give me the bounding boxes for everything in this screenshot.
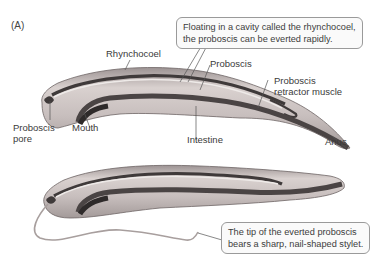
- callout-top-line1: Floating in a cavity called the rhynchoc…: [183, 21, 356, 33]
- label-retractor-line2: retractor muscle: [274, 86, 342, 97]
- label-anus: Anus: [325, 136, 347, 147]
- label-pore-line2: pore: [13, 133, 55, 144]
- label-intestine: Intestine: [187, 134, 223, 145]
- callout-bottom-line2: bears a sharp, nail-shaped stylet.: [228, 238, 363, 250]
- label-retractor-line1: Proboscis: [274, 75, 342, 86]
- panel-label: (A): [11, 20, 24, 31]
- label-proboscis-retractor-muscle: Proboscis retractor muscle: [274, 75, 342, 97]
- label-rhynchocoel: Rhynchocoel: [106, 48, 161, 59]
- callout-stylet: The tip of the everted proboscis bears a…: [221, 222, 370, 254]
- callout-bottom-line1: The tip of the everted proboscis: [228, 226, 363, 238]
- label-proboscis: Proboscis: [210, 58, 252, 69]
- callout-rhynchocoel: Floating in a cavity called the rhynchoc…: [176, 17, 363, 49]
- callout-top-line2: the proboscis can be everted rapidly.: [183, 33, 356, 45]
- label-proboscis-pore: Proboscis pore: [13, 122, 55, 144]
- label-pore-line1: Proboscis: [13, 122, 55, 133]
- label-mouth: Mouth: [72, 122, 98, 133]
